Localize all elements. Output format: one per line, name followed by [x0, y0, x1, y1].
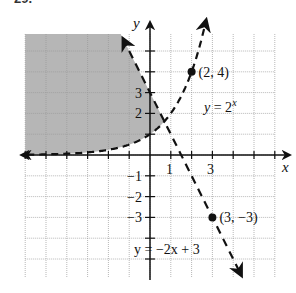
inequality-graph: (2, 4)(3, −3)xy1332−1−2−3y = 2xy = −2x +… [0, 0, 296, 293]
y-tick-label: 2 [135, 106, 142, 121]
y-tick-label: −2 [127, 190, 142, 205]
y-axis-label: y [131, 15, 140, 31]
y-tick-label: −3 [127, 210, 142, 225]
x-tick-label: 3 [207, 162, 214, 177]
y-tick-label: 3 [135, 86, 142, 101]
data-point [188, 68, 196, 76]
point-label: (2, 4) [199, 65, 230, 81]
y-tick-label: −1 [127, 169, 142, 184]
x-tick-label: 1 [166, 162, 173, 177]
x-axis-label: x [281, 159, 289, 175]
point-label: (3, −3) [219, 210, 258, 226]
equation-exponential: y = 2x [202, 97, 237, 115]
equation-linear: y = −2x + 3 [134, 242, 200, 257]
data-point [208, 213, 216, 221]
